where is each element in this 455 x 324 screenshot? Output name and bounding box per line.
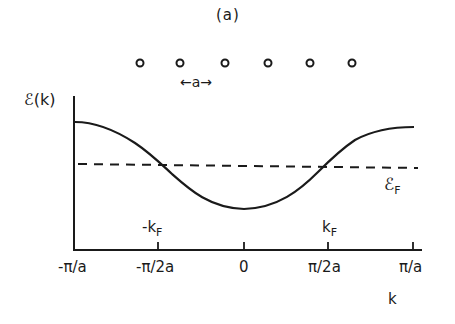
- tick-label-neg-pi-over-2a: -π/2a: [136, 258, 174, 276]
- fermi-level-line: [78, 164, 418, 168]
- pos-kf-sub: F: [331, 226, 337, 239]
- neg-kf-sub: F: [156, 226, 162, 239]
- pos-kf-main: k: [322, 218, 331, 236]
- tick-label-pi-over-a: π/a: [399, 258, 422, 276]
- pos-kf-label: kF: [322, 218, 337, 239]
- tick-label-pi-over-2a: π/2a: [308, 258, 341, 276]
- tick-label-zero: 0: [239, 258, 249, 276]
- lattice-spacing-label: ←a→: [180, 74, 212, 90]
- fermi-subscript: F: [394, 184, 400, 197]
- x-ticks: [158, 242, 413, 250]
- lattice-site: [222, 60, 229, 67]
- lattice-sites: [137, 60, 356, 67]
- y-axis-label: ℰ(k): [24, 90, 55, 109]
- lattice-site: [137, 60, 144, 67]
- neg-kf-main: -k: [142, 218, 156, 236]
- lattice-site: [307, 60, 314, 67]
- lattice-site: [349, 60, 356, 67]
- fermi-level-label: ℰF: [384, 174, 401, 197]
- tick-label-neg-pi-over-a: -π/a: [58, 258, 87, 276]
- lattice-site: [265, 60, 272, 67]
- panel-label: (a): [216, 6, 240, 24]
- x-axis-label: k: [388, 290, 397, 308]
- fermi-symbol: ℰ: [384, 174, 394, 194]
- lattice-site: [177, 60, 184, 67]
- neg-kf-label: -kF: [142, 218, 162, 239]
